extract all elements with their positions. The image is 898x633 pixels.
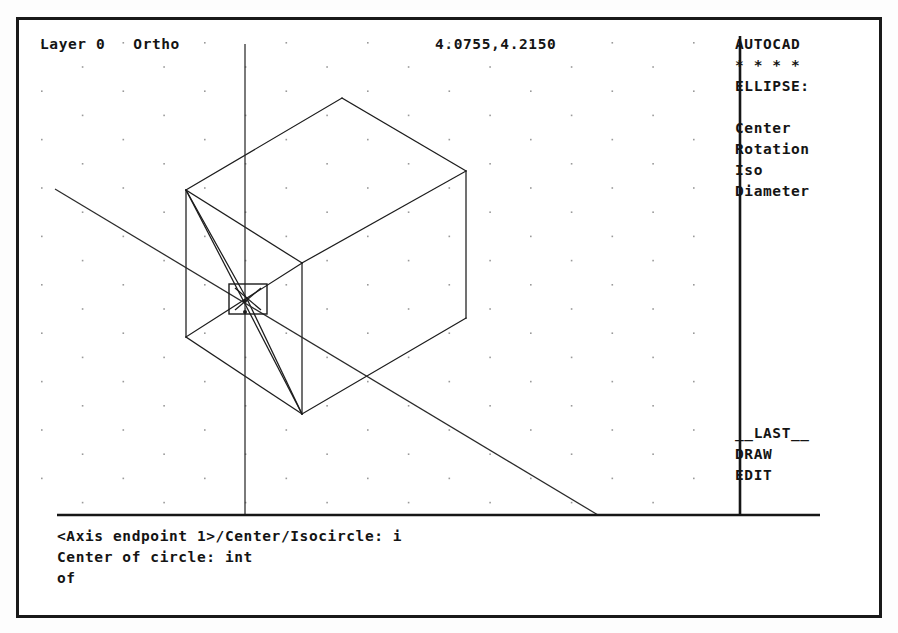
command-line-1: <Axis endpoint 1>/Center/Isocircle: i — [57, 528, 402, 544]
snap-point-dot — [243, 299, 247, 303]
menu-item-last[interactable]: __LAST__ — [735, 425, 810, 441]
command-line-3[interactable]: of — [57, 570, 76, 586]
panel-dividers — [57, 36, 820, 515]
menu-item-draw[interactable]: DRAW — [735, 446, 772, 462]
autocad-screen: Layer 0 Ortho 4.0755,4.2150 AUTOCAD * * … — [0, 0, 898, 633]
screen-frame: Layer 0 Ortho 4.0755,4.2150 AUTOCAD * * … — [16, 17, 882, 618]
crosshair-cursor — [55, 44, 598, 515]
coordinate-readout: 4.0755,4.2150 — [435, 36, 556, 52]
menu-item-rotation[interactable]: Rotation — [735, 141, 810, 157]
drawing-geometry — [19, 20, 879, 615]
command-line-2: Center of circle: int — [57, 549, 253, 565]
menu-separator: * * * * — [735, 57, 800, 73]
menu-item-iso[interactable]: Iso — [735, 162, 763, 178]
menu-item-edit[interactable]: EDIT — [735, 467, 772, 483]
snap-point-dot — [243, 310, 247, 314]
menu-item-diameter[interactable]: Diameter — [735, 183, 810, 199]
status-layer-text: Layer 0 Ortho — [40, 36, 180, 52]
box-top-face — [186, 98, 466, 263]
menu-item-center[interactable]: Center — [735, 120, 791, 136]
menu-title: AUTOCAD — [735, 36, 800, 52]
menu-command-heading[interactable]: ELLIPSE: — [735, 78, 810, 94]
drawing-canvas[interactable]: Layer 0 Ortho 4.0755,4.2150 AUTOCAD * * … — [19, 20, 879, 615]
box-right-face — [302, 171, 466, 414]
